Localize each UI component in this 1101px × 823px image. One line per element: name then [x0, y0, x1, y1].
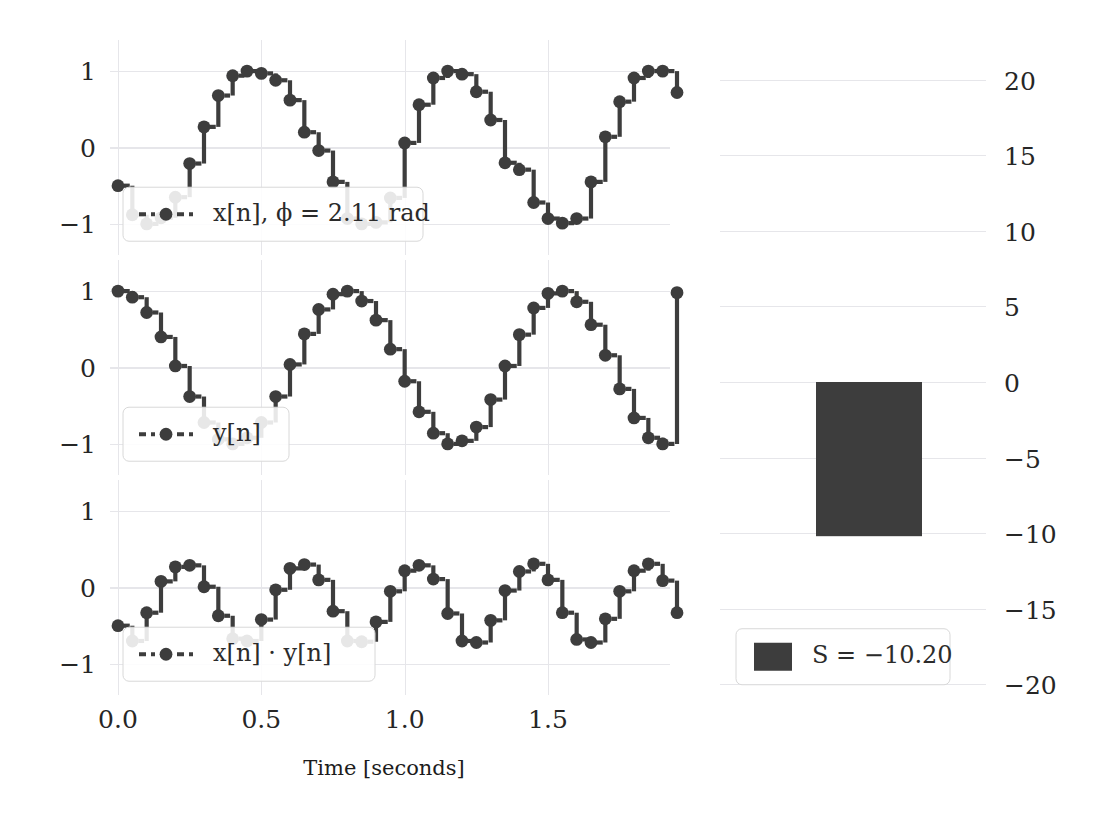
- data-point-marker: [484, 114, 497, 127]
- data-point-marker: [456, 434, 469, 447]
- data-point-marker: [613, 585, 626, 598]
- data-point-marker: [312, 573, 325, 586]
- bar-axis-tick-label: 0: [1004, 369, 1020, 398]
- sum-bar: [816, 382, 922, 536]
- data-point-marker: [542, 212, 555, 225]
- data-point-marker: [140, 306, 153, 319]
- data-point-marker: [370, 314, 383, 327]
- data-point-marker: [671, 86, 684, 99]
- legend-marker-sample: [160, 428, 173, 441]
- figure-canvas: 10−110−110−1x[n], ϕ = 2.11 rady[n]x[n] ·…: [0, 0, 1101, 823]
- data-point-marker: [642, 65, 655, 78]
- data-point-marker: [126, 291, 139, 304]
- legend-marker-sample: [160, 208, 173, 221]
- y-axis-tick-label: −1: [59, 430, 96, 459]
- chart-svg: 10−110−110−1x[n], ϕ = 2.11 rady[n]x[n] ·…: [0, 0, 1101, 823]
- data-point-marker: [513, 565, 526, 578]
- data-point-marker: [499, 360, 512, 373]
- bar-axis-tick-label: −10: [1004, 520, 1057, 549]
- data-point-marker: [183, 157, 196, 170]
- x-axis: 0.00.51.01.5Time [seconds]: [98, 705, 568, 780]
- data-point-marker: [212, 609, 225, 622]
- data-point-marker: [542, 287, 555, 300]
- data-point-marker: [327, 175, 340, 188]
- x-axis-tick-label: 0.5: [241, 705, 281, 734]
- data-point-marker: [327, 288, 340, 301]
- y-axis-tick-label: 0: [80, 134, 96, 163]
- data-point-marker: [384, 343, 397, 356]
- data-point-marker: [456, 68, 469, 81]
- data-point-marker: [183, 390, 196, 403]
- data-point-marker: [656, 438, 669, 451]
- data-point-marker: [570, 633, 583, 646]
- legend-marker-sample: [160, 648, 173, 661]
- data-point-marker: [284, 358, 297, 371]
- data-point-marker: [585, 636, 598, 649]
- data-point-marker: [398, 375, 411, 388]
- data-point-marker: [398, 564, 411, 577]
- data-point-marker: [155, 575, 168, 588]
- y-axis-tick-label: −1: [59, 650, 96, 679]
- data-point-marker: [255, 67, 268, 80]
- data-point-marker: [499, 156, 512, 169]
- data-point-marker: [556, 285, 569, 298]
- bar-axis-tick-label: 15: [1004, 142, 1036, 171]
- bar-legend-swatch: [754, 643, 792, 671]
- data-point-marker: [427, 573, 440, 586]
- data-point-marker: [298, 126, 311, 139]
- data-point-marker: [456, 635, 469, 648]
- data-point-marker: [269, 583, 282, 596]
- data-point-marker: [570, 295, 583, 308]
- data-point-marker: [599, 130, 612, 143]
- legend-label: x[n] · y[n]: [213, 639, 331, 667]
- data-point-marker: [585, 175, 598, 188]
- y-axis-tick-label: 0: [80, 354, 96, 383]
- data-point-marker: [642, 557, 655, 570]
- data-point-marker: [327, 605, 340, 618]
- x-axis-tick-label: 0.0: [98, 705, 138, 734]
- data-point-marker: [312, 144, 325, 157]
- data-point-marker: [513, 163, 526, 176]
- data-point-marker: [628, 412, 641, 425]
- data-point-marker: [671, 286, 684, 299]
- y-axis-tick-label: 0: [80, 574, 96, 603]
- data-point-marker: [441, 607, 454, 620]
- x-axis-tick-label: 1.0: [385, 705, 425, 734]
- x-axis-tick-label: 1.5: [528, 705, 568, 734]
- data-point-marker: [499, 584, 512, 597]
- data-point-marker: [484, 393, 497, 406]
- bar-axis-tick-label: 5: [1004, 293, 1020, 322]
- data-point-marker: [470, 421, 483, 434]
- data-point-marker: [527, 302, 540, 315]
- data-point-marker: [470, 85, 483, 98]
- y-axis-tick-label: 1: [80, 277, 96, 306]
- bar-axis-tick-label: −15: [1004, 596, 1057, 625]
- bar-panel: 20151050−5−10−15−20S = −10.20: [720, 67, 1057, 700]
- data-point-marker: [427, 72, 440, 85]
- data-point-marker: [155, 331, 168, 344]
- bar-legend-label: S = −10.20: [812, 641, 953, 669]
- data-point-marker: [112, 179, 125, 192]
- bar-axis-tick-label: 20: [1004, 67, 1036, 96]
- data-point-marker: [212, 89, 225, 102]
- data-point-marker: [112, 619, 125, 632]
- data-point-marker: [413, 559, 426, 572]
- data-point-marker: [284, 94, 297, 107]
- data-point-marker: [269, 390, 282, 403]
- data-point-marker: [599, 349, 612, 362]
- data-point-marker: [255, 613, 268, 626]
- bar-axis-tick-label: 10: [1004, 218, 1036, 247]
- data-point-marker: [398, 137, 411, 150]
- data-point-marker: [413, 405, 426, 418]
- bar-axis-tick-label: −20: [1004, 671, 1057, 700]
- data-point-marker: [570, 212, 583, 225]
- data-point-marker: [642, 431, 655, 444]
- data-point-marker: [527, 196, 540, 209]
- data-point-marker: [656, 574, 669, 587]
- y-axis-tick-label: −1: [59, 210, 96, 239]
- data-point-marker: [269, 74, 282, 87]
- y-axis-tick-label: 1: [80, 57, 96, 86]
- data-point-marker: [341, 285, 354, 298]
- data-point-marker: [226, 69, 239, 82]
- legend-label: x[n], ϕ = 2.11 rad: [213, 199, 430, 227]
